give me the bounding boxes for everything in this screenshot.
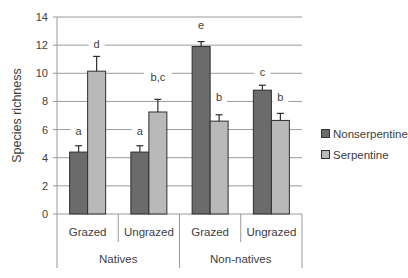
y-tick-label: 10 bbox=[36, 67, 48, 79]
y-axis-title: Species richness bbox=[10, 68, 24, 163]
significance-letter: c bbox=[260, 66, 266, 78]
y-tick-label: 6 bbox=[42, 124, 48, 136]
significance-letter: a bbox=[137, 125, 144, 137]
significance-letter: b bbox=[277, 91, 283, 103]
bar-nonserpentine bbox=[131, 152, 149, 214]
y-tick-label: 2 bbox=[42, 180, 48, 192]
significance-letter: a bbox=[76, 125, 83, 137]
significance-letter: e bbox=[198, 19, 204, 31]
significance-letter: d bbox=[94, 38, 100, 50]
legend-swatch-nonserpentine bbox=[321, 129, 330, 138]
bar-nonserpentine bbox=[70, 152, 88, 214]
legend-item-nonserpentine: Nonserpentine bbox=[321, 123, 408, 144]
legend: Nonserpentine Serpentine bbox=[321, 123, 408, 165]
bar-nonserpentine bbox=[253, 90, 271, 214]
legend-label: Nonserpentine bbox=[333, 128, 408, 140]
bar-serpentine bbox=[271, 120, 289, 214]
y-tick-label: 8 bbox=[42, 95, 48, 107]
y-tick-label: 12 bbox=[36, 39, 48, 51]
legend-swatch-serpentine bbox=[321, 150, 330, 159]
y-tick-label: 14 bbox=[36, 11, 48, 23]
x-category-label: Ungrazed bbox=[246, 226, 296, 238]
legend-item-serpentine: Serpentine bbox=[321, 144, 408, 165]
x-category-label: Grazed bbox=[69, 226, 107, 238]
bar-serpentine bbox=[149, 112, 167, 214]
x-group-label: Natives bbox=[99, 253, 138, 265]
bar-serpentine bbox=[210, 121, 228, 214]
bar-serpentine bbox=[88, 71, 106, 214]
significance-letter: b bbox=[216, 91, 222, 103]
y-tick-label: 4 bbox=[42, 152, 48, 164]
y-tick-label: 0 bbox=[42, 208, 48, 220]
legend-label: Serpentine bbox=[333, 149, 389, 161]
significance-letter: b,c bbox=[151, 71, 166, 83]
x-group-label: Non-natives bbox=[210, 253, 272, 265]
bar-nonserpentine bbox=[192, 47, 210, 214]
x-category-label: Ungrazed bbox=[124, 226, 174, 238]
x-category-label: Grazed bbox=[191, 226, 229, 238]
